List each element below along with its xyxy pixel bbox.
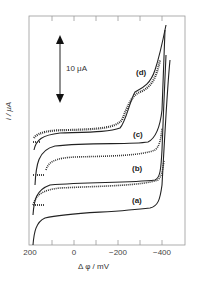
x-tick-minus400: −400 — [153, 248, 171, 257]
left-spikes — [33, 142, 44, 205]
curve-label-a: (a) — [132, 196, 142, 205]
curve-b — [33, 55, 166, 215]
curve-b-upper — [46, 128, 162, 170]
curve-label-c: (c) — [133, 130, 143, 139]
x-tick-minus200: −200 — [109, 248, 127, 257]
curve-label-d: (d) — [136, 68, 146, 77]
curve-c — [35, 30, 165, 185]
y-axis-label: i / μA — [4, 102, 13, 120]
x-tick-0: 0 — [72, 248, 76, 257]
voltammogram-plot — [0, 0, 198, 282]
curve-d — [34, 25, 166, 150]
scale-bar-arrow — [56, 35, 64, 103]
scale-bar-label: 10 μA — [66, 64, 87, 73]
x-axis-label: Δ φ / mV — [78, 262, 109, 271]
x-tick-200: 200 — [23, 248, 36, 257]
curve-label-b: (b) — [132, 164, 142, 173]
